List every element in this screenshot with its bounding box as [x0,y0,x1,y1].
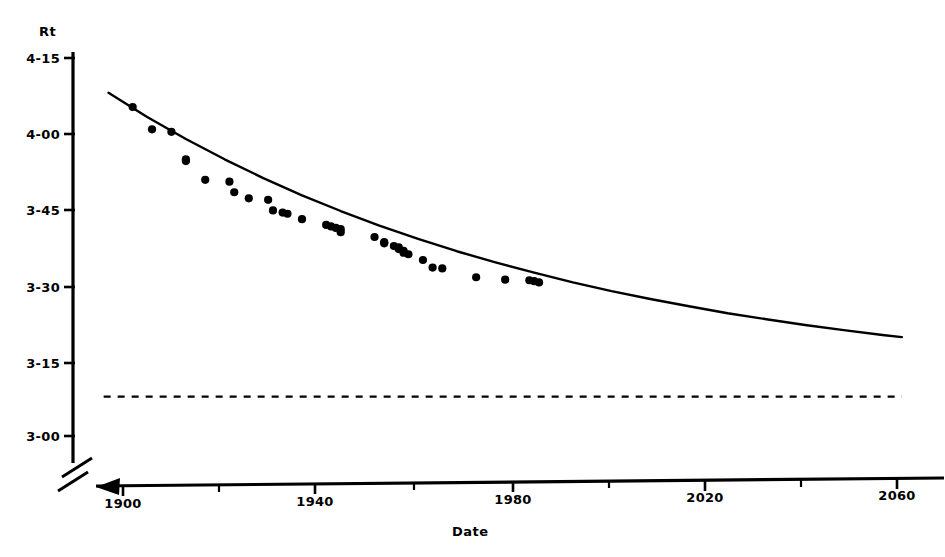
trend-curve [108,93,901,337]
y-tick-label: 3-45 [26,203,60,218]
x-axis-title: Date [452,524,489,539]
data-point [438,264,446,272]
y-axis-title: Rt [39,24,56,39]
data-point [380,239,388,247]
x-tick-label: 1980 [494,492,531,507]
x-tick-label: 2020 [686,490,723,505]
data-point [419,256,427,264]
data-point [182,157,190,165]
data-point [404,250,412,258]
data-point [472,273,480,281]
data-point [225,178,233,186]
data-point [148,125,156,133]
data-point [298,215,306,223]
data-point [429,263,437,271]
x-tick-label: 1940 [296,494,333,509]
chart-series-layer [104,93,902,397]
x-tick-label: 2060 [878,488,915,503]
data-point [337,228,345,236]
data-point [501,276,509,284]
y-tick-label: 3-00 [26,429,60,444]
x-axis-arrow-icon [96,478,120,495]
x-tick-label: 1900 [104,496,141,511]
data-point [201,176,209,184]
data-point [283,210,291,218]
y-tick-label: 3-30 [26,280,60,295]
y-tick-label: 4-15 [26,51,60,66]
y-axis-break-icon [58,458,92,491]
data-point [370,233,378,241]
data-point [535,278,543,286]
data-point [269,206,277,214]
data-point [264,196,272,204]
y-tick-label: 3-15 [26,356,60,371]
chart-plot-area [0,0,945,557]
data-point [230,188,238,196]
x-axis-line [96,478,944,486]
data-point [245,194,253,202]
y-tick-label: 4-00 [26,127,60,142]
chart-figure: Rt Date 4-154-003-453-303-153-00 1900194… [0,0,945,557]
